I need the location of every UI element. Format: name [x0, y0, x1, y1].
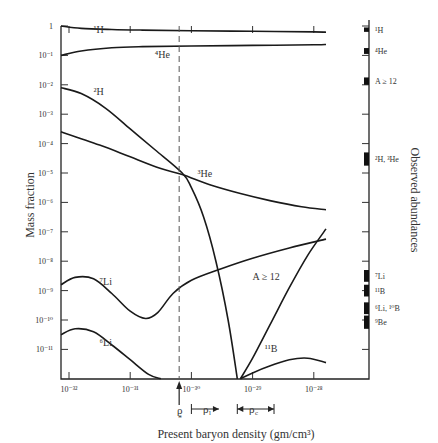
arrow-right-icon	[268, 406, 274, 412]
y-tick-label: 1	[49, 22, 53, 31]
rho-star-reference-line	[176, 26, 182, 405]
curve-series-2	[61, 88, 237, 379]
curve-label: ⁴He	[155, 49, 171, 60]
x-tick-label: 10⁻³²	[60, 385, 78, 394]
rho-l-label: ρ l	[203, 403, 211, 417]
abundance-curves	[61, 26, 326, 379]
curve-series-6	[240, 229, 326, 379]
y-tick-label: 10⁻⁴	[38, 140, 53, 149]
x-tick-label: 10⁻²⁹	[244, 385, 262, 394]
observed-bar	[364, 316, 369, 329]
curve-label: ³He	[198, 168, 213, 179]
y-tick-label: 10⁻¹	[38, 51, 53, 60]
observed-bar	[364, 270, 369, 282]
curve-label: A ≥ 12	[253, 271, 280, 282]
y-tick-label: 10⁻⁸	[38, 257, 53, 266]
observed-label: ²H, ³He	[375, 155, 399, 164]
x-tick-label: 10⁻²⁸	[305, 385, 323, 394]
observed-label: ¹¹B	[375, 287, 385, 296]
arrow-right-icon	[213, 406, 219, 412]
svg-text:*: *	[178, 414, 182, 423]
curve-series-5	[61, 329, 161, 379]
svg-text:c: c	[255, 409, 258, 417]
y-axis-label: Mass fraction	[23, 172, 37, 238]
axis-frame	[61, 20, 369, 379]
y-tick-label: 10⁻²	[38, 81, 53, 90]
rho-star-arrow-head-icon	[176, 381, 182, 389]
curve-label: ⁶Li	[100, 337, 113, 348]
y-tick-label: 10⁻⁷	[38, 228, 53, 237]
y-tick-label: 10⁻⁹	[38, 287, 53, 296]
observed-bar	[364, 285, 369, 297]
y-axis-ticks: 110⁻¹10⁻²10⁻³10⁻⁴10⁻⁵10⁻⁶10⁻⁷10⁻⁸10⁻⁹10⁻…	[35, 22, 369, 354]
abundance-chart: 110⁻¹10⁻²10⁻³10⁻⁴10⁻⁵10⁻⁶10⁻⁷10⁻⁸10⁻⁹10⁻…	[0, 0, 438, 443]
y-tick-label: 10⁻³	[38, 110, 53, 119]
curve-series-1	[61, 45, 326, 56]
observed-bar	[364, 48, 369, 54]
rho-star-label: ρ *	[177, 404, 183, 423]
curve-label: ⁷Li	[100, 276, 113, 287]
y-tick-label: 10⁻¹¹	[36, 345, 54, 354]
curve-series-7	[240, 358, 326, 379]
observed-bar	[364, 302, 369, 314]
x-tick-label: 10⁻³⁰	[182, 385, 200, 394]
observed-bar	[364, 77, 369, 84]
y-tick-label: 10⁻⁶	[38, 198, 53, 207]
observed-label: ¹H	[375, 26, 383, 35]
x-tick-label: 10⁻³¹	[122, 385, 140, 394]
y-tick-label: 10⁻¹⁰	[35, 316, 53, 325]
observed-label: ⁷Li	[375, 272, 386, 281]
curve-series-3	[61, 132, 326, 210]
curve-label: ²H	[93, 86, 103, 97]
observed-label: ⁶Li, ¹⁰B	[375, 304, 400, 313]
curve-labels: ¹H⁴He²H³He⁷Li⁶LiA ≥ 12¹¹B	[93, 24, 279, 354]
observed-bar	[364, 27, 369, 31]
observed-label: A ≥ 12	[375, 77, 397, 86]
x-axis-label: Present baryon density (gm/cm³)	[157, 427, 314, 441]
rho-c-label: ρ c	[249, 403, 258, 417]
svg-text:l: l	[209, 409, 211, 417]
observed-label: ⁴He	[375, 47, 388, 56]
curve-label: ¹H	[93, 24, 103, 35]
y-tick-label: 10⁻⁵	[38, 169, 53, 178]
curve-label: ¹¹B	[265, 343, 278, 354]
plot-axes	[61, 20, 369, 379]
observed-label: ⁹Be	[375, 318, 387, 327]
arrow-left-icon	[237, 406, 243, 412]
right-axis-label: Observed abundances	[408, 148, 422, 253]
observed-bar	[364, 152, 369, 165]
